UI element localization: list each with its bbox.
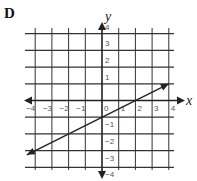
- x-axis-right-arrow-icon: [177, 97, 185, 105]
- x-tick-label: −1: [76, 104, 86, 113]
- x-tick-label: 0: [104, 104, 109, 113]
- x-tick-label: 2: [137, 104, 142, 113]
- y-tick-label: 1: [105, 73, 110, 82]
- y-tick-label: −4: [105, 170, 115, 179]
- x-tick-label: 3: [154, 104, 159, 113]
- y-tick-label: 4: [105, 23, 110, 32]
- x-tick-label: −3: [43, 104, 53, 113]
- y-tick-label: 2: [105, 56, 110, 65]
- coordinate-plane: xy−4−3−2−1012344321−1−2−3−4: [0, 0, 197, 181]
- y-tick-label: −1: [105, 120, 115, 129]
- x-tick-label: 4: [171, 104, 176, 113]
- x-tick-label: −2: [60, 104, 70, 113]
- y-tick-label: −2: [105, 137, 115, 146]
- x-axis-label: x: [185, 93, 193, 108]
- data-line: [27, 84, 169, 155]
- x-tick-label: −4: [26, 104, 36, 113]
- y-tick-label: −3: [105, 154, 115, 163]
- y-tick-label: 3: [105, 39, 110, 48]
